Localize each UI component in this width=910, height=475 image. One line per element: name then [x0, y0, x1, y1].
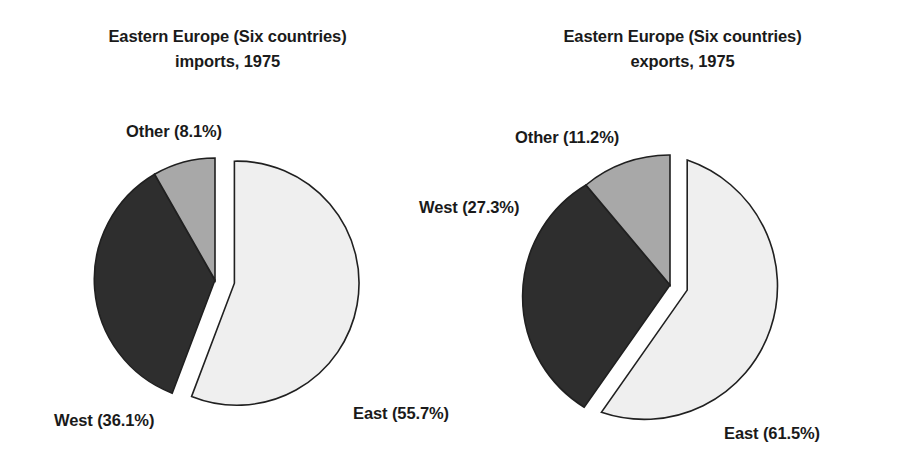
- pie-chart-figure: Eastern Europe (Six countries) imports, …: [0, 0, 910, 475]
- chart-panel-imports: Eastern Europe (Six countries) imports, …: [0, 0, 455, 475]
- chart-panel-exports: Eastern Europe (Six countries) exports, …: [455, 0, 910, 475]
- pie-slice-imports-east[interactable]: [192, 161, 359, 405]
- pie-label-imports-west: West (36.1%): [54, 410, 154, 430]
- pie-exports: [455, 0, 910, 475]
- pie-label-exports-other: Other (11.2%): [515, 127, 619, 147]
- pie-label-imports-east: East (55.7%): [353, 403, 449, 423]
- pie-label-imports-other: Other (8.1%): [126, 121, 222, 141]
- pie-label-exports-east: East (61.5%): [724, 423, 820, 443]
- pie-label-exports-west: West (27.3%): [419, 197, 519, 217]
